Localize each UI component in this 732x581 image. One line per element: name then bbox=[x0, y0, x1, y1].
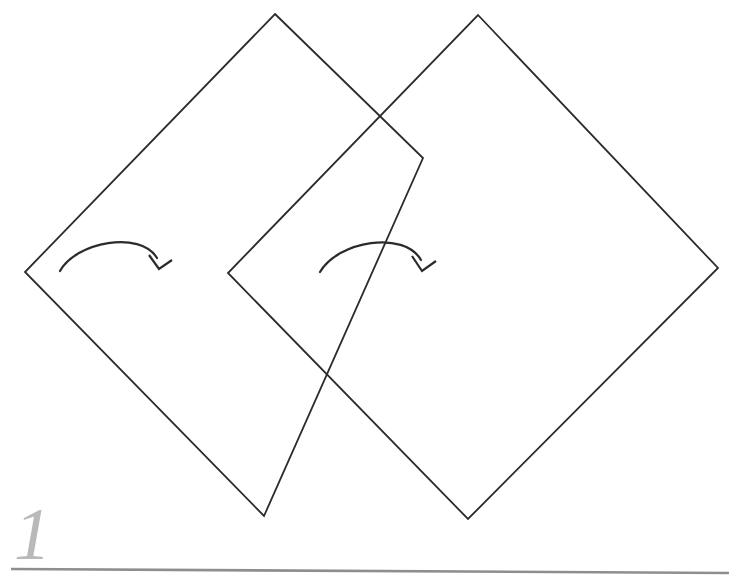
figure-canvas: 1 bbox=[0, 0, 732, 581]
figure-background bbox=[0, 0, 732, 581]
page-number: 1 bbox=[14, 493, 51, 575]
figure-illustration: 1 bbox=[0, 0, 732, 581]
